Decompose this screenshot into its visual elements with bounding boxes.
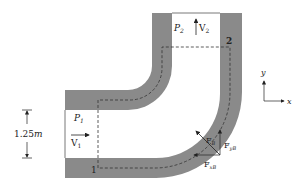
pipe-elbow-diagram: 1 2 P1 V1 P2 V2 1.25m FB FyB FxB y x bbox=[0, 0, 303, 181]
section-1-label: 1 bbox=[91, 165, 97, 175]
p1-label: P1 bbox=[73, 113, 84, 124]
x-axis-label: x bbox=[287, 97, 292, 106]
v2-label: V2 bbox=[198, 23, 210, 34]
fxb-label: FxB bbox=[204, 160, 216, 170]
section-2-label: 2 bbox=[226, 36, 232, 46]
pipe-inner-wall bbox=[65, 13, 172, 110]
y-axis-label: y bbox=[260, 68, 266, 77]
p2-label: P2 bbox=[173, 23, 184, 34]
v1-label: V1 bbox=[70, 138, 81, 149]
fyb-label: FyB bbox=[224, 141, 236, 152]
dimension-label: 1.25m bbox=[14, 129, 43, 139]
